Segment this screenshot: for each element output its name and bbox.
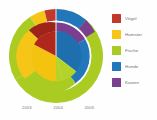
legend-swatch-katzen [112,78,121,87]
year-axis: 2003 2004 2005 [4,104,108,116]
legend-item-hamster[interactable]: Hamster [112,29,157,40]
donut-plot-area: 2003 2004 2005 [4,4,108,116]
axis-tick-2004: 2004 [53,104,63,111]
legend-label-hamster: Hamster [125,32,142,38]
legend-swatch-voegel [112,14,121,23]
legend-label-katzen: Katzen [125,80,139,86]
legend-label-hunde: Hunde [125,64,138,70]
legend-item-voegel[interactable]: Vögel [112,13,157,24]
legend-swatch-fische [112,46,121,55]
axis-tick-2003: 2003 [22,104,32,111]
axis-tick-2005: 2005 [84,104,94,111]
legend-label-voegel: Vögel [125,16,136,22]
chart-legend: Vögel Hamster Fische Hunde Katzen [112,13,157,107]
legend-swatch-hunde [112,62,121,71]
legend-item-fische[interactable]: Fische [112,45,157,56]
legend-item-katzen[interactable]: Katzen [112,77,157,88]
legend-label-fische: Fische [125,48,138,54]
legend-swatch-hamster [112,30,121,39]
multi-level-donut-chart [4,4,108,108]
legend-item-hunde[interactable]: Hunde [112,61,157,72]
chart-container: 2003 2004 2005 Vögel Hamster Fische Hund… [0,0,157,120]
